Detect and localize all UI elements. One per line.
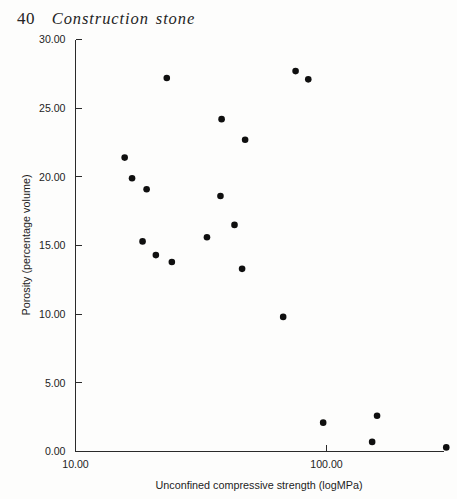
data-point bbox=[320, 419, 327, 426]
y-tick-label: 5.00 bbox=[45, 377, 66, 389]
y-tick-label: 0.00 bbox=[45, 445, 66, 457]
data-point bbox=[280, 314, 287, 321]
data-point bbox=[121, 154, 128, 161]
data-point bbox=[218, 116, 225, 123]
data-point bbox=[374, 412, 381, 419]
y-axis-tick-marks bbox=[76, 40, 82, 383]
data-point bbox=[163, 75, 170, 82]
y-tick-label: 20.00 bbox=[39, 171, 66, 183]
data-point bbox=[217, 193, 224, 200]
y-axis-tick-labels: 0.005.0010.0015.0020.0025.0030.00 bbox=[39, 33, 66, 457]
y-tick-label: 15.00 bbox=[39, 239, 66, 251]
y-tick-label: 25.00 bbox=[39, 102, 66, 114]
data-point bbox=[153, 252, 160, 259]
data-point bbox=[292, 68, 299, 75]
data-point bbox=[443, 444, 450, 451]
data-point bbox=[305, 76, 312, 83]
x-axis-tick-labels: 10.00100.00 bbox=[62, 458, 343, 470]
page-canvas: 40 Construction stone 0.005.0010.0015.00… bbox=[0, 0, 457, 499]
scatter-plot: 0.005.0010.0015.0020.0025.0030.00 10.001… bbox=[0, 0, 457, 499]
data-point bbox=[169, 259, 176, 266]
x-tick-label: 10.00 bbox=[62, 458, 89, 470]
x-tick-label: 100.00 bbox=[310, 458, 343, 470]
data-point bbox=[239, 266, 246, 273]
axis-frame bbox=[76, 40, 444, 452]
data-point bbox=[231, 222, 238, 229]
data-point bbox=[242, 136, 249, 143]
scatter-figure: 0.005.0010.0015.0020.0025.0030.00 10.001… bbox=[0, 0, 457, 499]
data-point bbox=[139, 238, 146, 245]
y-axis-label: Porosity (percentage volume) bbox=[20, 174, 32, 315]
data-point bbox=[369, 439, 376, 446]
data-point bbox=[129, 175, 136, 182]
y-tick-label: 30.00 bbox=[39, 33, 66, 45]
y-tick-label: 10.00 bbox=[39, 308, 66, 320]
data-point bbox=[204, 234, 211, 241]
x-axis-label: Unconfined compressive strength (logMPa) bbox=[155, 479, 362, 491]
data-points bbox=[121, 68, 449, 451]
data-point bbox=[143, 186, 150, 193]
